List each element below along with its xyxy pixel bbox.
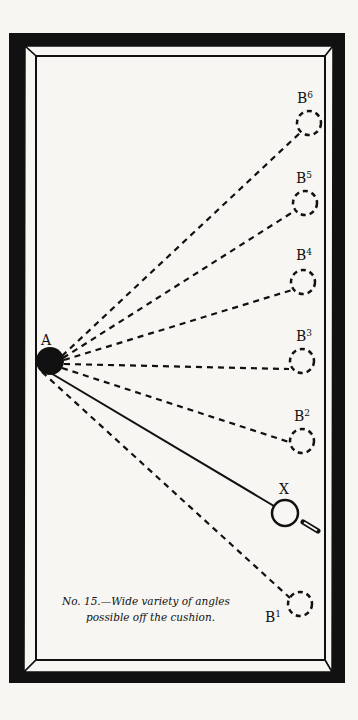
- caption-line-2: possible off the cushion.: [86, 611, 215, 623]
- cushion-top: [25, 46, 333, 56]
- billiard-table-diagram: A X B6 B5 B4 B3 B2 B1 No. 15.—Wide varie…: [0, 0, 358, 720]
- cushion-bottom: [24, 660, 332, 672]
- ball-a-label: A: [40, 332, 52, 348]
- cue-ball-a: [36, 347, 64, 375]
- playing-surface: [36, 56, 325, 660]
- object-ball-x: [272, 500, 298, 526]
- ball-x-label: X: [279, 481, 289, 497]
- cushion-right: [325, 46, 333, 672]
- caption-line-1: No. 15.—Wide variety of angles: [61, 595, 231, 607]
- cushion-left: [24, 46, 36, 672]
